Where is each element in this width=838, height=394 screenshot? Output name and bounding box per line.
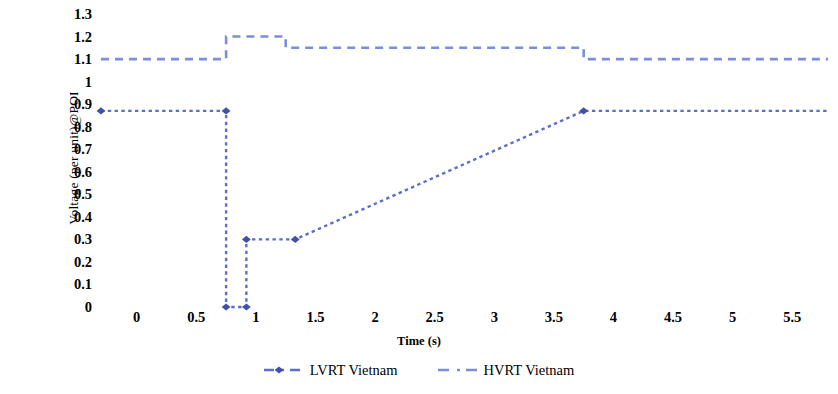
series-line [101,111,828,307]
x-tick-label: 3.5 [531,310,577,325]
chart-container: Voltage (per unit)@POI 00.10.20.30.40.50… [0,0,838,394]
x-tick-label: 0.5 [173,310,219,325]
legend-label: LVRT Vietnam [310,362,398,379]
legend-marker-dash-icon [438,363,478,377]
chart-legend: LVRT VietnamHVRT Vietnam [0,358,838,382]
x-tick-label: 1 [233,310,279,325]
series-line [101,37,828,60]
legend-label: HVRT Vietnam [484,362,575,379]
x-tick-label: 4 [590,310,636,325]
x-axis-label: Time (s) [0,334,838,349]
x-tick-label: 3 [471,310,517,325]
x-axis-tick-labels: 00.511.522.533.544.555.5 [0,310,838,332]
x-tick-label: 0 [114,310,160,325]
x-tick-label: 5 [710,310,756,325]
series-lvrt [97,107,828,310]
legend-item-hvrt[interactable]: HVRT Vietnam [438,362,575,379]
x-tick-label: 2 [352,310,398,325]
data-point-marker [291,236,300,243]
x-tick-label: 4.5 [650,310,696,325]
x-tick-label: 5.5 [769,310,815,325]
x-tick-label: 2.5 [412,310,458,325]
x-tick-label: 1.5 [292,310,338,325]
data-point-marker [242,236,251,243]
legend-item-lvrt[interactable]: LVRT Vietnam [264,362,398,379]
data-point-marker [97,107,106,114]
data-point-marker [222,107,231,114]
legend-marker-diamond-icon [264,363,304,377]
series-hvrt [101,37,828,60]
